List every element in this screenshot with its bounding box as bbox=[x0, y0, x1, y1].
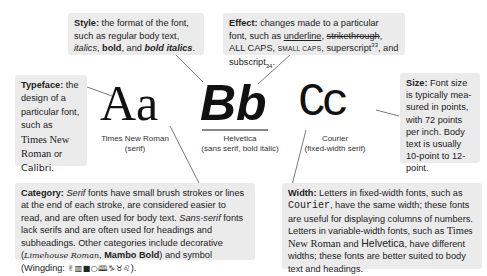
category-callout: Category: Serif fonts have small brush s… bbox=[15, 183, 255, 260]
style-sep: , and bbox=[121, 43, 144, 53]
typeface-times-example: Times New Roman bbox=[21, 134, 69, 159]
caption-helvetica-name: Helvetica bbox=[190, 134, 290, 144]
width-courier-example: Courier bbox=[288, 200, 330, 211]
style-label: Style: bbox=[74, 18, 99, 28]
style-bold-example: bold bbox=[102, 43, 121, 53]
caption-courier-type: (fixed-width serif) bbox=[295, 144, 375, 154]
style-end: . bbox=[192, 43, 195, 53]
size-connector bbox=[376, 110, 399, 116]
effect-strikethrough-example: strikethrough bbox=[327, 31, 380, 41]
category-sans-serif-term: Sans-serif bbox=[179, 213, 220, 223]
style-italics-example: italics bbox=[74, 43, 97, 53]
typeface-label: Typeface: bbox=[21, 80, 63, 90]
typeface-callout: Typeface: the design of a particular fon… bbox=[15, 75, 87, 166]
style-connector bbox=[176, 55, 203, 82]
style-callout: Style: the format of the font, such as r… bbox=[68, 13, 204, 55]
size-label: Size: bbox=[406, 78, 427, 88]
effect-end: . bbox=[272, 57, 275, 67]
sample-aa: Aa bbox=[100, 78, 158, 128]
caption-helvetica: Helvetica (sans serif, bold italic) bbox=[190, 134, 290, 154]
effect-callout: Effect: changes made to a particular fon… bbox=[223, 13, 405, 55]
category-end: ). bbox=[131, 263, 137, 273]
effect-sep: , superscript bbox=[321, 43, 371, 53]
sample-bb: Bb bbox=[200, 78, 267, 128]
caption-courier: Courier (fixed-width serif) bbox=[295, 134, 375, 154]
effect-superscript-example: 33 bbox=[371, 42, 378, 48]
style-bold-italics-example: bold italics bbox=[144, 43, 192, 53]
typeface-calibri-example: Calibri bbox=[21, 162, 51, 173]
size-callout: Size: Font size is typically mea- sured … bbox=[400, 73, 480, 163]
caption-times-type: (serif) bbox=[95, 144, 175, 154]
width-text: Letters in fixed-width fonts, such as bbox=[317, 188, 463, 198]
caption-times-name: Times New Roman bbox=[95, 134, 175, 144]
width-helvetica-example: Helvetica bbox=[361, 237, 404, 249]
category-wingding-icons: ✌▥■○🕮♑︎♉︎♌︎ bbox=[67, 264, 130, 273]
category-decorative-example-2: Mambo Bold bbox=[104, 250, 159, 260]
category-decorative-example-1: Limehouse Roman bbox=[24, 251, 99, 260]
effect-underline-example: underline bbox=[284, 31, 322, 41]
sample-cc: Cc bbox=[298, 80, 345, 126]
typeface-end: . bbox=[51, 163, 54, 173]
width-label: Width: bbox=[288, 188, 317, 198]
width-callout: Width: Letters in fixed-width fonts, suc… bbox=[282, 183, 482, 269]
width-and: and bbox=[341, 239, 361, 249]
caption-helvetica-type: (sans serif, bold italic) bbox=[190, 144, 290, 154]
typeface-or: or bbox=[51, 149, 62, 159]
category-label: Category: bbox=[21, 188, 64, 198]
caption-courier-name: Courier bbox=[295, 134, 375, 144]
category-serif-term: Serif bbox=[66, 188, 85, 198]
effect-small-caps-example: SMALL CAPS bbox=[278, 45, 322, 52]
caption-times: Times New Roman (serif) bbox=[95, 134, 175, 154]
effect-label: Effect: bbox=[229, 18, 258, 28]
size-text: Font size is typically mea- sured in poi… bbox=[406, 78, 471, 173]
